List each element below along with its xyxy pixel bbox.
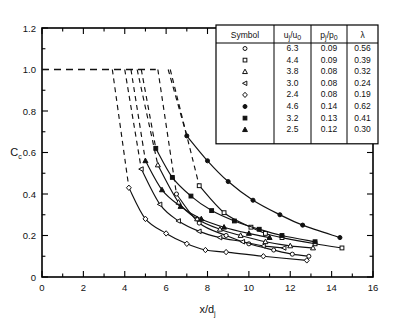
legend-cell-pj-p0: 0.08 — [321, 78, 338, 88]
legend-cell-uj-u0: 3.2 — [287, 113, 299, 123]
x-tick-label: 12 — [285, 282, 296, 293]
data-point-filled-square — [154, 146, 158, 150]
data-point-open-circle — [174, 192, 178, 196]
y-tick-label: 1.0 — [23, 64, 36, 75]
legend-cell-pj-p0: 0.08 — [321, 89, 338, 99]
data-point-filled-square — [232, 219, 236, 223]
data-point-filled-circle — [278, 213, 282, 217]
x-tick-label: 2 — [81, 282, 86, 293]
data-point-open-circle — [224, 233, 228, 237]
x-tick-label: 14 — [326, 282, 337, 293]
legend-cell-pj-p0: 0.09 — [321, 55, 338, 65]
data-point-open-circle — [197, 221, 201, 225]
data-point-filled-circle — [205, 159, 209, 163]
data-point-filled-circle — [338, 236, 342, 240]
y-tick-label: 0.8 — [23, 106, 36, 117]
legend-cell-lambda: 0.41 — [354, 113, 371, 123]
legend-cell-lambda: 0.30 — [354, 124, 371, 134]
x-tick-label: 4 — [122, 282, 127, 293]
x-tick-label: 16 — [368, 282, 379, 293]
data-point-filled-square — [313, 240, 317, 244]
legend-cell-uj-u0: 3.0 — [287, 78, 299, 88]
legend-cell-pj-p0: 0.12 — [321, 124, 338, 134]
x-axis-title: x/dj — [199, 303, 216, 318]
data-point-filled-circle — [185, 134, 189, 138]
legend-header-symbol: Symbol — [231, 30, 259, 40]
x-tick-label: 6 — [163, 282, 168, 293]
legend-cell-lambda: 0.39 — [354, 55, 371, 65]
legend-cell-uj-u0: 4.4 — [287, 55, 299, 65]
data-point-filled-square — [189, 194, 193, 198]
legend-cell-pj-p0: 0.13 — [321, 113, 338, 123]
legend-cell-uj-u0: 4.6 — [287, 101, 299, 111]
legend-cell-uj-u0: 2.5 — [287, 124, 299, 134]
data-point-filled-circle — [251, 198, 255, 202]
data-point-open-square — [222, 211, 226, 215]
data-point-filled-square — [210, 209, 214, 213]
y-tick-label: 1.2 — [23, 23, 36, 34]
x-tick-label: 10 — [244, 282, 255, 293]
legend-cell-lambda: 0.19 — [354, 89, 371, 99]
y-tick-label: 0 — [31, 272, 36, 283]
y-tick-label: 0.6 — [23, 147, 36, 158]
data-point-open-circle — [272, 248, 276, 252]
data-point-open-square — [243, 58, 247, 62]
legend-cell-lambda: 0.32 — [354, 66, 371, 76]
legend-cell-lambda: 0.56 — [354, 43, 371, 53]
x-tick-label: 8 — [205, 282, 210, 293]
data-point-filled-square — [257, 227, 261, 231]
legend-cell-pj-p0: 0.09 — [321, 43, 338, 53]
data-point-open-circle — [243, 47, 247, 51]
data-point-filled-square — [280, 234, 284, 238]
legend-cell-lambda: 0.24 — [354, 78, 371, 88]
figure-root: 024681012141600.20.40.60.81.01.2x/djCcSy… — [0, 0, 393, 322]
data-point-open-circle — [290, 252, 294, 256]
x-tick-label: 0 — [39, 282, 44, 293]
legend-cell-pj-p0: 0.14 — [321, 101, 338, 111]
data-point-filled-square — [243, 116, 247, 120]
legend-cell-uj-u0: 2.4 — [287, 89, 299, 99]
data-point-filled-circle — [243, 105, 247, 109]
legend-table: Symboluj/u0pj/p0λ6.30.090.564.40.090.393… — [216, 25, 378, 144]
data-point-filled-circle — [301, 223, 305, 227]
legend-cell-pj-p0: 0.08 — [321, 66, 338, 76]
data-point-open-square — [340, 246, 344, 250]
data-point-filled-circle — [226, 180, 230, 184]
chart-svg: 024681012141600.20.40.60.81.01.2x/djCcSy… — [0, 0, 393, 322]
legend-cell-lambda: 0.62 — [354, 101, 371, 111]
data-point-filled-square — [170, 175, 174, 179]
legend-cell-uj-u0: 6.3 — [287, 43, 299, 53]
y-tick-label: 0.2 — [23, 230, 36, 241]
legend-cell-uj-u0: 3.8 — [287, 66, 299, 76]
data-point-open-square — [197, 184, 201, 188]
y-tick-label: 0.4 — [23, 189, 36, 200]
y-axis-title: Cc — [10, 146, 22, 160]
